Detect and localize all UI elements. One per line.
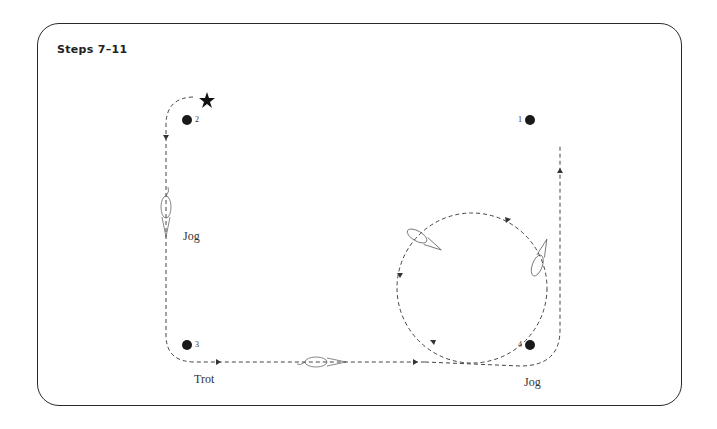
arrow-right-icon	[413, 359, 418, 365]
marker-label-2: 2	[195, 115, 199, 124]
path-left-side	[166, 97, 425, 362]
gait-label-trot: Trot	[194, 372, 214, 387]
marker-dot-4	[525, 340, 535, 350]
pattern-diagram	[0, 0, 717, 429]
gait-label-jog-left: Jog	[183, 229, 200, 244]
arrow-down-icon	[430, 340, 436, 345]
marker-label-1: 1	[518, 115, 522, 124]
marker-label-4: 4	[518, 340, 522, 349]
path-circle	[397, 213, 547, 363]
arrow-up-icon	[557, 168, 563, 173]
gait-label-jog-right: Jog	[524, 375, 541, 390]
arrow-left-icon	[505, 217, 511, 223]
marker-dot-3	[182, 340, 192, 350]
arrow-right-icon	[216, 359, 221, 365]
arrow-down-icon	[163, 135, 169, 140]
marker-label-3: 3	[195, 340, 199, 349]
star-icon	[199, 92, 215, 108]
marker-dot-1	[525, 115, 535, 125]
marker-dot-2	[182, 115, 192, 125]
